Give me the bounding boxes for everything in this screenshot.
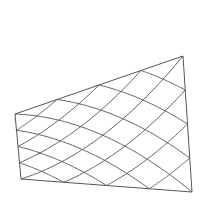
lattice-line-descending	[99, 85, 188, 124]
diagram-canvas	[0, 0, 209, 201]
lattice-line-ascending	[149, 158, 190, 189]
lattice-line-ascending	[107, 124, 188, 186]
lattice-line-descending	[141, 71, 185, 91]
lattice-line-ascending	[64, 90, 186, 182]
lattice-line-ascending	[18, 85, 99, 147]
diagonal-lines-ascending	[17, 56, 190, 189]
warped-grid-figure	[0, 0, 209, 201]
lattice-line-descending	[57, 100, 190, 159]
diagonal-lines-descending	[15, 71, 192, 193]
